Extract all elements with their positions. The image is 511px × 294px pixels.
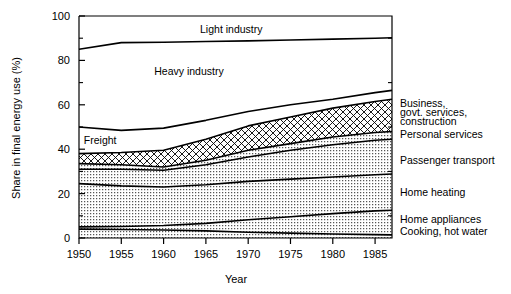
band-label: Freight [84, 134, 117, 146]
right-side-legend: Business,govt. services,constructionPers… [400, 97, 495, 237]
y-axis-title: Share in final energy use (%) [10, 57, 22, 199]
x-tick-label: 1985 [363, 248, 387, 260]
legend-label: Home appliances [400, 213, 481, 225]
x-tick-label: 1970 [236, 248, 260, 260]
x-axis-title: Year [225, 273, 248, 285]
legend-label: Home heating [400, 186, 466, 198]
stacked-area-chart: 19501955196019651970197519801985 0204060… [0, 0, 511, 294]
y-tick-label: 80 [58, 54, 70, 66]
legend-label: construction [400, 115, 457, 127]
legend-label: Passenger transport [400, 154, 495, 166]
band-label: Heavy industry [154, 65, 224, 77]
x-tick-label: 1955 [109, 248, 133, 260]
x-tick-label: 1965 [194, 248, 218, 260]
x-tick-label: 1980 [321, 248, 345, 260]
x-tick-label: 1960 [151, 248, 175, 260]
band-label: Light industry [200, 23, 263, 35]
legend-label: Personal services [400, 128, 483, 140]
x-tick-label: 1950 [67, 248, 91, 260]
x-tick-label: 1975 [278, 248, 302, 260]
legend-label: Cooking, hot water [400, 225, 488, 237]
y-tick-label: 60 [58, 99, 70, 111]
chart-figure: 19501955196019651970197519801985 0204060… [0, 0, 511, 294]
y-tick-label: 40 [58, 143, 70, 155]
plot-area [79, 16, 392, 238]
y-tick-label: 20 [58, 188, 70, 200]
y-tick-labels: 020406080100 [52, 10, 70, 244]
y-tick-label: 100 [52, 10, 70, 22]
y-tick-label: 0 [64, 232, 70, 244]
x-tick-labels: 19501955196019651970197519801985 [67, 248, 388, 260]
